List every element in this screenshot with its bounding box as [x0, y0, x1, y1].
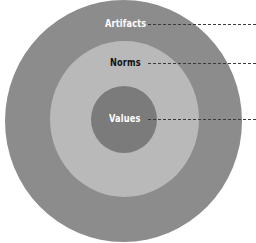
leader-line-artifacts: [148, 24, 256, 25]
leader-line-values: [148, 119, 256, 120]
leader-line-norms: [148, 63, 256, 64]
label-norms: Norms: [110, 57, 141, 69]
label-artifacts: Artifacts: [105, 18, 146, 30]
label-values: Values: [109, 113, 141, 125]
